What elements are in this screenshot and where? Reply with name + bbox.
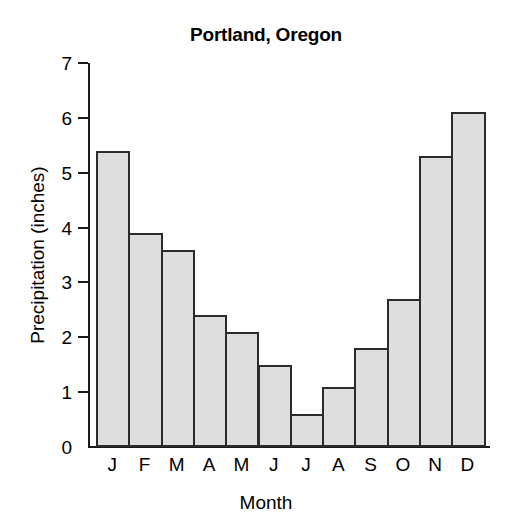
x-axis-tick-label: A: [195, 455, 223, 474]
page-title: Portland, Oregon: [0, 24, 532, 46]
x-axis-tick-label: D: [453, 455, 481, 474]
x-axis-tick-label: J: [260, 455, 288, 474]
y-axis-tick-label: 3: [44, 273, 72, 292]
x-axis-tick-label: N: [421, 455, 449, 474]
bar: [258, 365, 292, 447]
y-axis-tick-label: 2: [44, 328, 72, 347]
bar: [451, 112, 485, 447]
x-axis-tick-label: M: [163, 455, 191, 474]
bar: [225, 332, 259, 447]
y-axis-tick-label: 6: [44, 109, 72, 128]
y-axis-tick-label: 1: [44, 383, 72, 402]
x-axis-tick-label: M: [227, 455, 255, 474]
y-axis-tick-label: 0: [44, 438, 72, 457]
y-axis-title: Precipitation (inches): [27, 166, 49, 343]
bar: [387, 299, 421, 447]
y-axis-tick-label: 7: [44, 54, 72, 73]
bar: [322, 387, 356, 447]
y-axis-line: [88, 63, 90, 448]
y-axis-tick: [78, 391, 88, 393]
bar: [161, 250, 195, 447]
bar: [354, 348, 388, 447]
bar: [193, 315, 227, 447]
x-axis-tick-label: J: [292, 455, 320, 474]
bar: [419, 156, 453, 447]
precipitation-bar-chart-figure: Portland, Oregon Precipitation (inches) …: [0, 0, 532, 532]
bar: [128, 233, 162, 447]
bar: [290, 414, 324, 447]
x-axis-tick-label: A: [324, 455, 352, 474]
bars-group: [96, 63, 484, 447]
y-axis-tick: [78, 62, 88, 64]
bar: [96, 151, 130, 447]
x-axis-tick-label: S: [357, 455, 385, 474]
y-axis-tick-label: 5: [44, 164, 72, 183]
y-axis-tick: [78, 281, 88, 283]
x-axis-tick-label: O: [389, 455, 417, 474]
y-axis-tick: [78, 172, 88, 174]
x-axis-tick-label: J: [98, 455, 126, 474]
x-axis-tick-label: F: [130, 455, 158, 474]
y-axis-tick: [78, 227, 88, 229]
y-axis-tick: [78, 336, 88, 338]
y-axis-tick: [78, 117, 88, 119]
x-axis-title: Month: [0, 492, 532, 514]
y-axis-tick-label: 4: [44, 219, 72, 238]
